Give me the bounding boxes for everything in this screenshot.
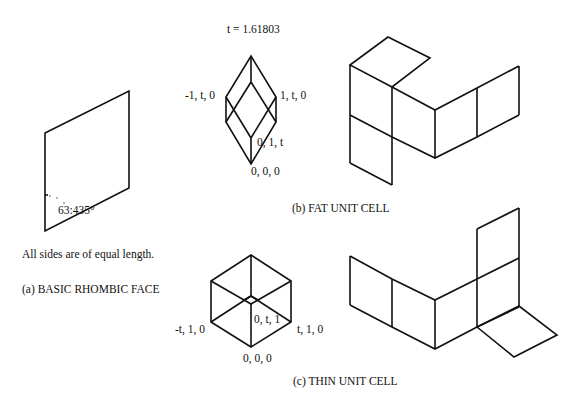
caption-c: (c) THIN UNIT CELL	[293, 375, 398, 388]
vertex-label-inner: 0, t, 1	[254, 313, 280, 326]
vertex-label-right: 1, t, 0	[280, 89, 306, 102]
thin-cell-net	[350, 208, 557, 357]
vertex-label-inner: 0, 1, t	[257, 136, 284, 149]
vertex-label-left: -t, 1, 0	[175, 323, 205, 336]
fat-cell-net	[350, 37, 519, 185]
vertex-label-origin: 0, 0, 0	[243, 352, 272, 365]
caption-b: (b) FAT UNIT CELL	[292, 202, 389, 215]
caption-a: (a) BASIC RHOMBIC FACE	[22, 283, 159, 296]
vertex-label-left: -1, t, 0	[185, 89, 215, 102]
vertex-label-right: t, 1, 0	[297, 323, 323, 336]
figure-svg: 63:435° All sides are of equal length. (…	[0, 0, 578, 401]
equal-sides-note: All sides are of equal length.	[22, 248, 154, 261]
vertex-label-origin: 0, 0, 0	[251, 165, 280, 178]
figure-canvas: 63:435° All sides are of equal length. (…	[0, 0, 578, 401]
angle-label: 63:435°	[58, 204, 95, 216]
golden-ratio-label: t = 1.61803	[227, 23, 280, 35]
thin-rhombohedron	[211, 255, 291, 347]
